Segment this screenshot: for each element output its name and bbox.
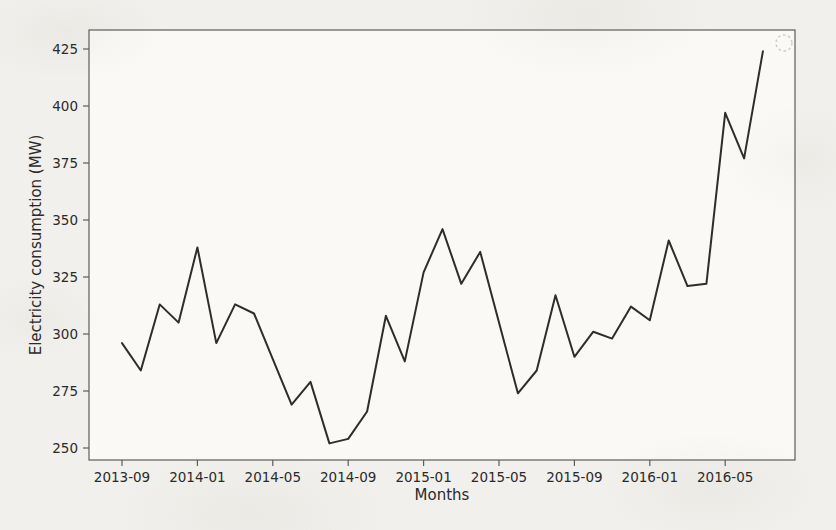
x-tick-label: 2016-01 bbox=[622, 469, 678, 485]
x-tick-label: 2014-01 bbox=[169, 469, 225, 485]
y-axis-label: Electricity consumption (MW) bbox=[27, 135, 45, 356]
y-tick-label: 425 bbox=[52, 41, 78, 57]
y-tick-label: 275 bbox=[52, 383, 78, 399]
plot-area bbox=[89, 30, 795, 460]
x-tick-label: 2015-09 bbox=[546, 469, 602, 485]
x-tick-label: 2014-09 bbox=[320, 469, 376, 485]
y-tick-label: 325 bbox=[52, 269, 78, 285]
x-tick-label: 2014-05 bbox=[245, 469, 301, 485]
chart-svg: 2502753003253503754004252013-092014-0120… bbox=[0, 0, 836, 530]
chart-figure: 2502753003253503754004252013-092014-0120… bbox=[0, 0, 836, 530]
x-tick-label: 2016-05 bbox=[697, 469, 753, 485]
x-tick-label: 2015-05 bbox=[471, 469, 527, 485]
x-tick-label: 2013-09 bbox=[94, 469, 150, 485]
y-tick-label: 375 bbox=[52, 155, 78, 171]
y-tick-label: 250 bbox=[52, 440, 78, 456]
y-tick-label: 400 bbox=[52, 98, 78, 114]
y-tick-label: 300 bbox=[52, 326, 78, 342]
x-axis-label: Months bbox=[415, 486, 470, 504]
y-tick-label: 350 bbox=[52, 212, 78, 228]
x-tick-label: 2015-01 bbox=[395, 469, 451, 485]
